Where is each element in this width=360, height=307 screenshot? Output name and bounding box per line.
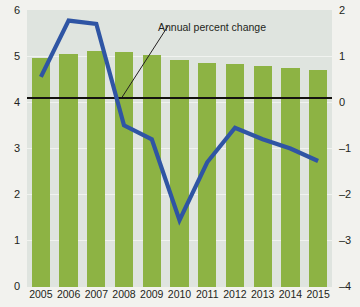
x-axis-tick-2005: 2005 (29, 289, 52, 300)
x-axis-tick-2008: 2008 (112, 289, 135, 300)
x-axis-tick-2011: 2011 (196, 289, 219, 300)
left-axis-tick-0: 0 (14, 281, 20, 292)
x-axis-tick-2007: 2007 (85, 289, 108, 300)
right-y-axis: 2 1 0 –1 –2 –3 –4 (336, 0, 360, 307)
right-axis-tick-0: 0 (339, 97, 345, 108)
right-axis-tick-neg-3: –3 (339, 235, 351, 246)
right-axis-tick-1: 1 (339, 51, 345, 62)
x-axis-tick-2006: 2006 (57, 289, 80, 300)
x-axis-tick-2010: 2010 (168, 289, 191, 300)
annual-percent-change-line (41, 21, 318, 221)
right-axis-tick-2: 2 (339, 5, 345, 16)
right-axis-tick-neg-2: –2 (339, 189, 351, 200)
left-axis-tick-6: 6 (14, 5, 20, 16)
x-axis: 2005200620072008200920102011201220132014… (27, 289, 332, 305)
right-axis-tick-neg-1: –1 (339, 143, 351, 154)
x-axis-tick-2014: 2014 (279, 289, 302, 300)
left-axis-tick-1: 1 (14, 235, 20, 246)
x-axis-tick-2013: 2013 (251, 289, 274, 300)
plot-area (27, 10, 332, 287)
x-axis-tick-2009: 2009 (140, 289, 163, 300)
left-axis-tick-5: 5 (14, 51, 20, 62)
chart-container: 6 5 4 3 2 1 0 2 1 0 –1 –2 –3 –4 Annual p… (0, 0, 360, 307)
left-axis-tick-3: 3 (14, 143, 20, 154)
left-y-axis: 6 5 4 3 2 1 0 (0, 0, 24, 307)
annotation-leader-line (122, 26, 168, 97)
x-axis-tick-2012: 2012 (223, 289, 246, 300)
right-axis-tick-neg-4: –4 (339, 281, 351, 292)
left-axis-tick-2: 2 (14, 189, 20, 200)
annotation-label-annual-percent-change: Annual percent change (158, 22, 266, 33)
x-axis-tick-2015: 2015 (306, 289, 329, 300)
line-series-overlay (27, 10, 332, 287)
left-axis-tick-4: 4 (14, 97, 20, 108)
